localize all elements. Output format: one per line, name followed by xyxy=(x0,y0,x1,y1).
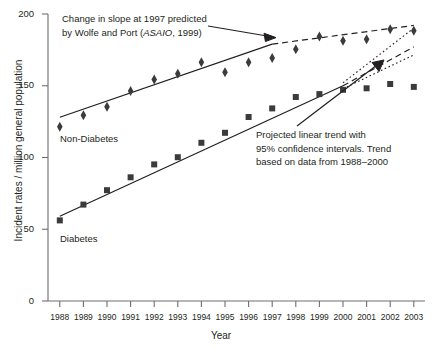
x-tick-label-2003: 2003 xyxy=(396,312,432,322)
marker-point xyxy=(198,140,204,146)
annotation-projected-trend: Projected linear trend with 95% confiden… xyxy=(256,128,391,169)
marker-point xyxy=(317,31,323,41)
marker-point xyxy=(57,122,63,132)
slope-note-arrow-shaft xyxy=(208,26,267,36)
annotation-proj-line2: 95% confidence intervals. Trend xyxy=(256,142,391,156)
series-label-non-diabetes: Non-Diabetes xyxy=(60,133,118,144)
marker-point xyxy=(199,57,205,67)
annotation-slope-line1: Change in slope at 1997 predicted xyxy=(62,12,207,26)
marker-point xyxy=(128,86,134,96)
x-axis-title: Year xyxy=(0,330,442,341)
diabetes-upper-95-ci-line xyxy=(343,28,414,83)
series-non-diabetes-markers xyxy=(57,24,417,132)
marker-point xyxy=(151,74,157,84)
marker-point xyxy=(269,53,275,63)
marker-point xyxy=(387,81,393,87)
marker-point xyxy=(364,85,370,91)
projection-note-arrow-shaft xyxy=(297,65,377,126)
marker-point xyxy=(340,36,346,46)
annotation-journal-name: ASAIO xyxy=(143,27,172,38)
marker-point xyxy=(387,24,393,34)
marker-point xyxy=(293,94,299,100)
marker-point xyxy=(222,67,228,77)
marker-point xyxy=(364,34,370,44)
annotation-proj-line1: Projected linear trend with xyxy=(256,128,391,142)
annotation-slope-line2: by Wolfe and Port (ASAIO, 1999) xyxy=(62,26,207,40)
marker-point xyxy=(246,57,252,67)
annotation-proj-line3: based on data from 1988–2000 xyxy=(256,155,391,169)
fit-lines-group xyxy=(60,25,414,216)
non-diabetes-observed-fit-line xyxy=(60,44,272,117)
annotation-slope-line2-post: , 1999) xyxy=(172,27,202,38)
y-tick-marks xyxy=(42,14,48,301)
series-label-diabetes: Diabetes xyxy=(60,233,98,244)
marker-point xyxy=(222,130,228,136)
marker-point xyxy=(293,44,299,54)
marker-point xyxy=(246,114,252,120)
marker-point xyxy=(80,202,86,208)
marker-point xyxy=(269,105,275,111)
marker-point xyxy=(104,102,110,112)
marker-point xyxy=(128,174,134,180)
chart-plot-area xyxy=(0,0,442,353)
marker-point xyxy=(57,217,63,223)
marker-point xyxy=(316,91,322,97)
marker-point xyxy=(411,26,417,36)
y-axis-title: Incident rates / million general populat… xyxy=(13,0,24,306)
x-tick-marks xyxy=(60,301,414,307)
slope-note-arrow-head xyxy=(264,33,276,41)
marker-point xyxy=(104,187,110,193)
marker-point xyxy=(175,154,181,160)
diabetes-lower-95-ci-line xyxy=(343,55,414,89)
annotation-slope-change: Change in slope at 1997 predicted by Wol… xyxy=(62,12,207,39)
marker-point xyxy=(151,161,157,167)
annotation-slope-line2-pre: by Wolfe and Port ( xyxy=(62,27,143,38)
marker-point xyxy=(411,84,417,90)
marker-point xyxy=(81,110,87,120)
chart-figure: 200 150 100 50 0 1988 1989 1990 1991 199… xyxy=(0,0,442,353)
